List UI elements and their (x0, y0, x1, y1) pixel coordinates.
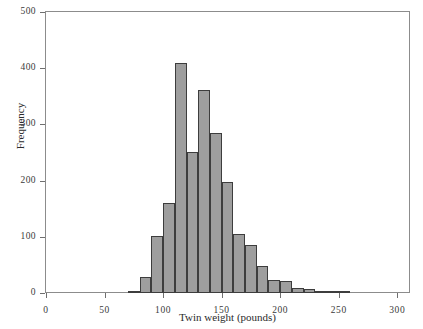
histogram-bar (210, 133, 222, 293)
x-axis-tick (397, 293, 398, 298)
histogram-bar (140, 277, 152, 293)
x-axis-tick (222, 293, 223, 298)
x-axis-tick (105, 293, 106, 298)
y-axis-tick (40, 124, 45, 125)
histogram-figure: 0100200300400500 050100150200250300 Twin… (0, 0, 423, 329)
histogram-bar (304, 289, 316, 293)
cropped-title-remnant (150, 0, 310, 5)
y-axis-tick (40, 293, 45, 294)
histogram-bar (198, 90, 210, 293)
x-axis-tick (163, 293, 164, 298)
y-axis-tick (40, 181, 45, 182)
y-axis-tick (40, 237, 45, 238)
histogram-bar (233, 234, 245, 293)
histogram-bar (280, 281, 292, 293)
x-axis-title: Twin weight (pounds) (45, 311, 410, 323)
histogram-bar (327, 291, 339, 293)
y-axis-tick (40, 68, 45, 69)
histogram-bars (46, 12, 409, 293)
histogram-bar (163, 203, 175, 293)
histogram-bar (292, 288, 304, 293)
histogram-bar (315, 291, 327, 293)
x-axis-tick (46, 293, 47, 298)
histogram-bar (222, 182, 234, 293)
histogram-bar (257, 266, 269, 293)
histogram-bar (175, 63, 187, 293)
histogram-bar (187, 152, 199, 293)
x-axis-tick (339, 293, 340, 298)
y-axis-title: Frequency (14, 66, 26, 186)
y-axis-tick-label: 100 (8, 232, 36, 242)
histogram-bar (245, 245, 257, 293)
histogram-bar (339, 291, 351, 293)
y-axis-tick-label: 500 (8, 7, 36, 17)
y-axis-tick (40, 12, 45, 13)
histogram-bar (151, 236, 163, 293)
x-axis-tick (280, 293, 281, 298)
histogram-bar (128, 291, 140, 293)
histogram-bar (268, 280, 280, 293)
y-axis-tick-label: 0 (8, 288, 36, 298)
